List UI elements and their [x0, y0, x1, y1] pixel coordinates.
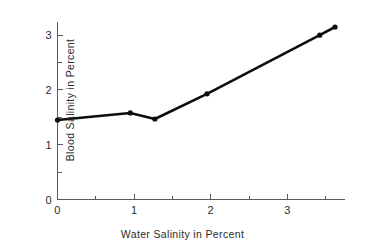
x-axis-title: Water Salinity in Percent	[0, 228, 365, 240]
data-point	[55, 117, 60, 122]
data-markers-group	[55, 24, 338, 122]
y-tick-label: 3	[38, 29, 52, 41]
data-series-group	[58, 27, 336, 120]
data-point	[128, 110, 133, 115]
data-point	[152, 116, 157, 121]
axes-group	[58, 22, 346, 200]
data-point	[332, 24, 337, 29]
y-axis-title: Blood Salinity in Percent	[64, 39, 76, 162]
data-point	[204, 91, 209, 96]
y-tick-label: 0	[38, 194, 52, 206]
y-tick-label: 2	[38, 84, 52, 96]
data-line	[58, 27, 336, 120]
x-tick-label: 2	[208, 204, 214, 216]
chart-container: 0123 0123 Water Salinity in Percent Bloo…	[0, 0, 365, 251]
y-tick-label: 1	[38, 139, 52, 151]
x-tick-label: 0	[54, 204, 60, 216]
x-tick-label: 1	[131, 204, 137, 216]
x-tick-label: 3	[284, 204, 290, 216]
data-point	[317, 33, 322, 38]
